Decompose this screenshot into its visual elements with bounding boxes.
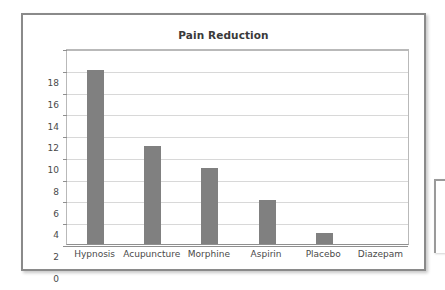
- y-axis-tick-label: 14: [48, 122, 59, 132]
- y-axis-tick: [63, 202, 67, 203]
- y-axis-labels: 181614121086420: [23, 49, 59, 245]
- x-axis-tick-label: Hypnosis: [74, 249, 115, 259]
- y-axis-tick-label: 6: [53, 209, 59, 219]
- bar: [87, 70, 104, 244]
- x-axis-tick-label: Morphine: [188, 249, 230, 259]
- y-axis-tick-label: 18: [48, 78, 59, 88]
- gridline: [67, 50, 408, 51]
- y-axis-tick: [63, 50, 67, 51]
- y-axis-tick: [63, 137, 67, 138]
- gridline: [67, 159, 408, 160]
- y-axis-tick: [63, 246, 67, 247]
- y-axis-tick-label: 16: [48, 100, 59, 110]
- y-axis-tick: [63, 181, 67, 182]
- y-axis-tick: [63, 115, 67, 116]
- plot-wrap: [66, 49, 409, 245]
- x-axis-tick-label: Acupuncture: [123, 249, 180, 259]
- y-axis-tick-label: 12: [48, 143, 59, 153]
- y-axis-tick-label: 10: [48, 165, 59, 175]
- gridline: [67, 72, 408, 73]
- y-axis-tick-label: 8: [53, 187, 59, 197]
- x-axis-tick-label: Placebo: [306, 249, 341, 259]
- gridline: [67, 246, 408, 247]
- plot-area: [66, 49, 409, 245]
- bar: [144, 146, 161, 244]
- gridline: [67, 224, 408, 225]
- y-axis-tick: [63, 224, 67, 225]
- y-axis-tick-label: 2: [53, 252, 59, 262]
- y-axis-tick-label: 0: [53, 274, 59, 284]
- gridline: [67, 137, 408, 138]
- x-axis-tick-label: Aspirin: [251, 249, 282, 259]
- x-axis-tick-label: Diazepam: [358, 249, 403, 259]
- gridline: [67, 202, 408, 203]
- bar: [201, 168, 218, 244]
- adjacent-panel-sliver: [434, 179, 445, 253]
- bar: [259, 200, 276, 244]
- gridline: [67, 94, 408, 95]
- bar: [316, 233, 333, 244]
- y-axis-tick: [63, 94, 67, 95]
- x-axis-labels: HypnosisAcupunctureMorphineAspirinPlaceb…: [66, 249, 409, 265]
- gridline: [67, 181, 408, 182]
- gridline: [67, 115, 408, 116]
- y-axis-tick: [63, 159, 67, 160]
- chart-title: Pain Reduction: [23, 29, 424, 41]
- chart-figure-frame: Pain Reduction 181614121086420 HypnosisA…: [21, 13, 426, 271]
- y-axis-tick-label: 4: [53, 230, 59, 240]
- y-axis-tick: [63, 72, 67, 73]
